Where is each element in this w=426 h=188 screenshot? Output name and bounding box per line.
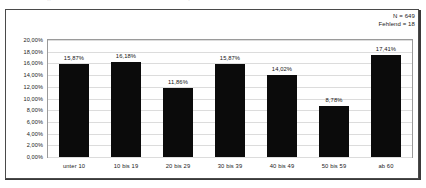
x-axis-tick-labels: unter 1010 bis 1920 bis 2930 bis 3940 bi… (48, 162, 412, 174)
y-axis-tick: 8,00% (27, 107, 43, 113)
bar[interactable] (319, 106, 349, 157)
bar[interactable] (215, 64, 245, 157)
x-axis-tick: 30 bis 39 (204, 162, 256, 170)
y-axis-tick: 18,00% (23, 49, 43, 55)
bar[interactable] (163, 88, 193, 157)
bar-group: 15,87% (204, 40, 256, 157)
artifact-text-right: · (188, 0, 190, 4)
y-axis-tick: 6,00% (27, 119, 43, 125)
bar-value-label: 14,02% (272, 66, 292, 73)
x-axis-tick: ab 60 (360, 162, 412, 170)
bar-value-label: 15,87% (220, 55, 240, 62)
x-axis-tick: 40 bis 49 (256, 162, 308, 170)
frame-right-edge (419, 10, 421, 180)
bar-group: 11,86% (152, 40, 204, 157)
gridline (48, 157, 412, 158)
x-axis-tick: 10 bis 19 (100, 162, 152, 170)
bars-layer: 15,87%16,18%11,86%15,87%14,02%8,78%17,41… (48, 40, 412, 157)
chart-annotations: N = 649 Fehlend = 18 (379, 12, 415, 28)
bar-group: 8,78% (308, 40, 360, 157)
x-axis-tick: unter 10 (48, 162, 100, 170)
page-artifacts: ·· · (0, 0, 426, 9)
x-axis-tick: 50 bis 59 (308, 162, 360, 170)
y-axis-tick: 14,00% (23, 72, 43, 78)
bar-group: 15,87% (48, 40, 100, 157)
y-axis-tick: 12,00% (23, 84, 43, 90)
y-axis-tick: 4,00% (27, 131, 43, 137)
bar-value-label: 11,86% (168, 79, 188, 86)
bar-group: 17,41% (360, 40, 412, 157)
bar[interactable] (111, 62, 141, 157)
bar[interactable] (59, 64, 89, 157)
missing-count-label: Fehlend = 18 (379, 20, 415, 28)
sample-size-label: N = 649 (379, 12, 415, 20)
y-axis-tick: 20,00% (23, 37, 43, 43)
artifact-text-left: ·· (47, 0, 51, 4)
y-axis-tick: 2,00% (27, 142, 43, 148)
y-axis-tick: 10,00% (23, 96, 43, 102)
y-axis-tick: 16,00% (23, 60, 43, 66)
y-axis-tick-labels: 20,00%18,00%16,00%14,00%12,00%10,00%8,00… (6, 39, 45, 158)
bar[interactable] (267, 75, 297, 157)
y-axis-tick: 0,00% (27, 154, 43, 160)
bar-value-label: 15,87% (64, 55, 84, 62)
bar-group: 16,18% (100, 40, 152, 157)
bar-value-label: 16,18% (116, 53, 136, 60)
chart-figure-frame: N = 649 Fehlend = 18 20,00%18,00%16,00%1… (5, 9, 419, 179)
bar-value-label: 17,41% (376, 46, 396, 53)
x-axis-tick: 20 bis 29 (152, 162, 204, 170)
bar-group: 14,02% (256, 40, 308, 157)
bar[interactable] (371, 55, 401, 157)
bar-value-label: 8,78% (326, 97, 343, 104)
